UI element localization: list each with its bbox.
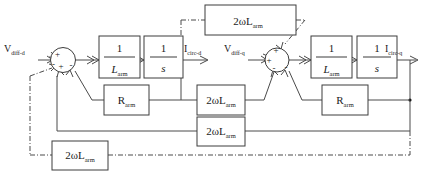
block-integrator-d-den: s: [161, 62, 165, 74]
block-integrator-q-den: s: [375, 62, 379, 74]
sum-d-sign-minus-2: -: [70, 60, 73, 70]
sum-q-sign-minus-1: -: [273, 63, 276, 73]
label-vdiff-q: Vdiff-q: [224, 43, 245, 56]
block-gain-d-num: 1: [117, 42, 123, 54]
block-gain-q-num: 1: [329, 42, 335, 54]
block-integrator-q-num: 1: [374, 42, 380, 54]
block-diagram-canvas: + + - - + + - - 2ωLarm 1 Larm 1 s 1 Larm: [0, 0, 422, 175]
sum-d-sign-plus-2: +: [58, 61, 63, 71]
sum-d-sign-minus-1: -: [52, 59, 55, 69]
sum-d-sign-plus-1: +: [55, 49, 60, 59]
sum-q-sign-minus-2: -: [285, 62, 288, 72]
label-vdiff-d: Vdiff-d: [4, 43, 25, 56]
wire-coupmid-to-sumq: [264, 72, 274, 100]
label-icirc-d: Icirc-d: [184, 43, 201, 56]
block-resistance-q[interactable]: [322, 85, 368, 115]
sum-q-sign-plus-1: +: [273, 45, 278, 55]
wire-dashdot-to-sumd: [30, 68, 52, 76]
wire-rd-to-sumd: [75, 71, 92, 100]
block-integrator-d-num: 1: [161, 42, 167, 54]
control-block-diagram: + + - - + + - - 2ωLarm 1 Larm 1 s 1 Larm: [0, 0, 422, 175]
block-resistance-d[interactable]: [104, 85, 149, 115]
sum-q-sign-plus-2: +: [266, 55, 271, 65]
wire-rq-to-sumq: [289, 71, 302, 100]
